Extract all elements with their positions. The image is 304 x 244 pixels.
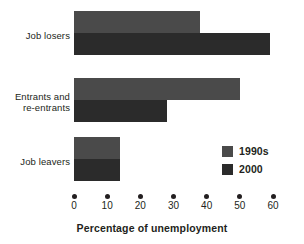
legend: 1990s 2000 (222, 142, 269, 178)
bar-job-losers-2000 (74, 33, 270, 55)
legend-item-2000[interactable]: 2000 (222, 160, 269, 178)
bar-entrants-and-re-entrants-2000 (74, 100, 167, 122)
plot-area: Job losers Entrants and re-entrants Job … (0, 0, 304, 244)
x-tick-label-10: 10 (95, 200, 119, 212)
category-label-entrants-and-re-entrants: Entrants and re-entrants (6, 91, 70, 113)
x-tick-dot-60 (271, 194, 276, 199)
bar-job-leavers-1990s (74, 137, 120, 159)
x-tick-dot-50 (237, 194, 242, 199)
x-tick-dot-30 (171, 194, 176, 199)
x-tick-label-0: 0 (62, 200, 86, 212)
x-axis-title: Percentage of unemployment (0, 222, 304, 234)
bar-job-losers-1990s (74, 11, 200, 33)
bar-chart: Job losers Entrants and re-entrants Job … (0, 0, 304, 244)
category-label-job-losers: Job losers (6, 30, 70, 41)
x-tick-dot-10 (105, 194, 110, 199)
x-tick-label-40: 40 (195, 200, 219, 212)
legend-swatch-icon-2000 (222, 164, 233, 175)
bar-entrants-and-re-entrants-1990s (74, 78, 240, 100)
x-tick-dot-0 (72, 194, 77, 199)
legend-item-1990s[interactable]: 1990s (222, 142, 269, 160)
x-tick-dot-40 (204, 194, 209, 199)
legend-label-1990s: 1990s (239, 145, 269, 157)
x-tick-label-30: 30 (162, 200, 186, 212)
legend-label-2000: 2000 (239, 163, 263, 175)
x-tick-label-50: 50 (228, 200, 252, 212)
x-tick-label-60: 60 (261, 200, 285, 212)
x-tick-label-20: 20 (128, 200, 152, 212)
x-tick-dot-20 (138, 194, 143, 199)
legend-swatch-icon-1990s (222, 146, 233, 157)
category-label-job-leavers: Job leavers (6, 156, 70, 167)
bar-job-leavers-2000 (74, 159, 120, 181)
